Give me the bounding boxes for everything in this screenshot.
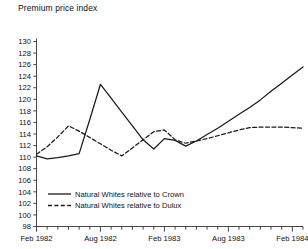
y-axis-title: Premium price index [18,3,108,14]
y-axis-tick-label: 124 [18,72,31,81]
series-line-2 [37,126,304,156]
premium-price-index-chart: Premium price index 98100102104106108110… [0,0,308,249]
y-axis-tick-label: 106 [18,176,31,185]
y-axis-tick-label: 102 [18,199,31,208]
y-axis-tick-label: 114 [19,130,31,139]
x-axis-tick-label: Feb 1983 [148,234,180,243]
y-axis-tick-label: 122 [18,83,31,92]
y-axis-tick-label: 110 [19,153,31,162]
legend-label-1: Natural Whites relative to Crown [75,190,184,199]
x-axis-tick-label: Aug 1983 [212,234,245,243]
x-axis-tick-label: Feb 1982 [20,234,52,243]
y-axis-tick-label: 130 [18,37,31,46]
x-axis-tick-label: Aug 1982 [84,234,117,243]
y-axis-tick-label: 108 [18,164,31,173]
y-axis-tick-label: 118 [19,107,31,116]
y-axis-tick-label: 116 [19,118,31,127]
legend-label-2: Natural Whites relative to Dulux [75,201,182,210]
y-axis-tick-label: 100 [18,211,31,220]
y-axis-tick-label: 98 [23,222,31,231]
y-axis-tick-label: 112 [19,141,31,150]
y-axis-tick-label: 126 [18,60,31,69]
x-axis-tick-label: Feb 1984 [276,234,308,243]
series-line-1 [37,67,304,159]
chart-canvas: 9810010210410610811011211411611812012212… [0,0,308,249]
y-axis-tick-label: 128 [18,49,31,58]
y-axis-tick-label: 104 [18,188,31,197]
y-axis-tick-label: 120 [18,95,31,104]
